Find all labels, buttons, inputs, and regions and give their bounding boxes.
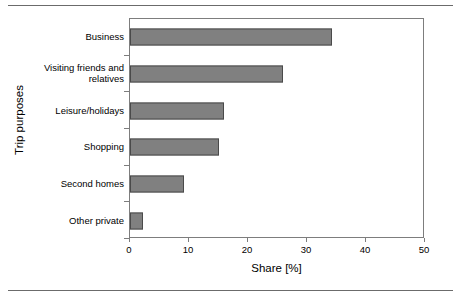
y-axis-category-label-line: Business (0, 31, 124, 42)
x-axis-tick-label: 20 (232, 244, 262, 255)
y-axis-category-label-line: Leisure/holidays (0, 104, 124, 115)
x-axis-tick (424, 238, 425, 242)
x-axis-tick (188, 238, 189, 242)
bar (130, 175, 184, 192)
y-axis-category-label: Business (0, 31, 124, 42)
bottom-divider-rule (8, 290, 453, 291)
x-axis-title: Share [%] (129, 262, 424, 274)
y-axis-category-labels: BusinessVisiting friends andrelativesLei… (0, 18, 124, 238)
x-axis-tick (247, 238, 248, 242)
bar-row (130, 19, 423, 56)
x-axis-tick (129, 238, 130, 242)
bar (130, 139, 219, 156)
x-axis-tick-label: 10 (173, 244, 203, 255)
y-axis-category-label-line: relatives (0, 73, 124, 84)
bar (130, 102, 224, 119)
y-axis-category-label: Other private (0, 214, 124, 225)
figure-container: Trip purposes BusinessVisiting friends a… (0, 0, 461, 296)
bar (130, 65, 283, 82)
y-axis-category-label: Second homes (0, 178, 124, 189)
y-axis-category-label: Shopping (0, 141, 124, 152)
y-axis-category-label-line: Other private (0, 214, 124, 225)
bar-row (130, 202, 423, 239)
y-axis-category-label-line: Second homes (0, 178, 124, 189)
bar-row (130, 92, 423, 129)
x-axis-tick-label: 30 (291, 244, 321, 255)
x-axis-tick-label: 0 (114, 244, 144, 255)
x-axis-tick-label: 40 (350, 244, 380, 255)
top-divider-rule (8, 5, 453, 6)
y-axis-category-label: Visiting friends andrelatives (0, 62, 124, 84)
bar (130, 29, 332, 46)
bar-row (130, 56, 423, 93)
bar (130, 212, 143, 229)
bar-row (130, 129, 423, 166)
y-axis-category-label-line: Shopping (0, 141, 124, 152)
y-axis-category-label-line: Visiting friends and (0, 62, 124, 73)
x-axis-tick-label: 50 (409, 244, 439, 255)
bar-row (130, 166, 423, 203)
x-axis-tick (365, 238, 366, 242)
y-axis-category-label: Leisure/holidays (0, 104, 124, 115)
x-axis-tick (306, 238, 307, 242)
plot-area (129, 18, 424, 238)
